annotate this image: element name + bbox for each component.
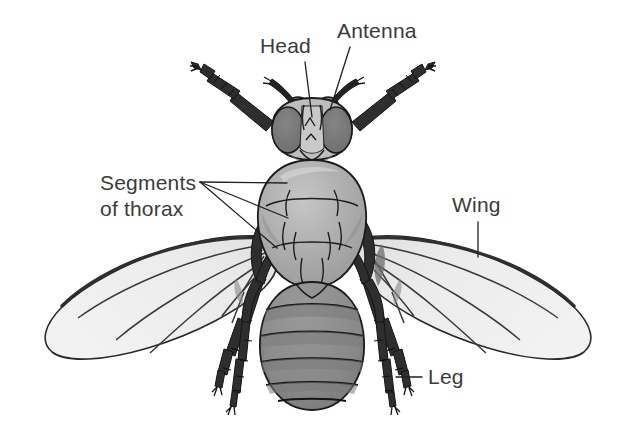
antenna-left-arista (269, 79, 294, 104)
compound-eye-left (272, 107, 304, 153)
leg-front-left (190, 62, 274, 131)
leader-antenna (330, 47, 350, 110)
thorax-body (258, 160, 366, 287)
label-wing: Wing (452, 193, 501, 216)
thorax (258, 160, 366, 300)
label-segments-of-thorax-line2: of thorax (100, 197, 184, 220)
label-antenna: Antenna (337, 19, 417, 42)
fly-illustration: Head Antenna Segments of thorax Wing Leg (0, 0, 629, 436)
label-segments-of-thorax-line1: Segments (100, 171, 196, 194)
label-leg: Leg (428, 365, 464, 388)
fly-anatomy-figure: Head Antenna Segments of thorax Wing Leg (0, 0, 629, 436)
compound-eye-right (320, 107, 352, 153)
abdomen (260, 282, 364, 410)
leg-front-right (352, 62, 436, 131)
head (272, 98, 352, 162)
label-head: Head (260, 34, 311, 57)
